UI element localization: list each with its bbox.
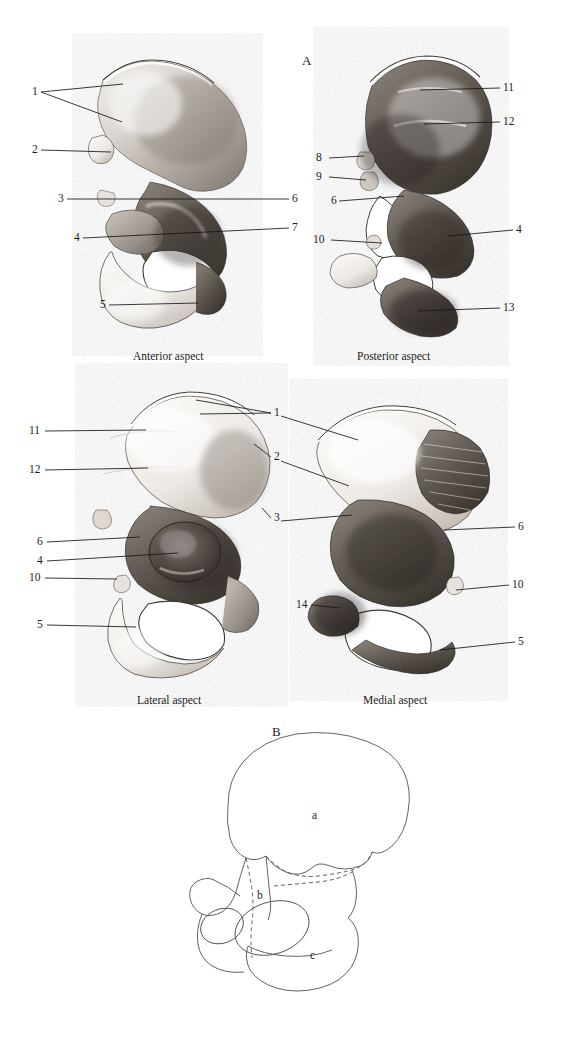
label-12-posterior: 12 [503,116,515,128]
label-11-lateral: 11 [29,425,40,437]
label-4-lateral: 4 [37,555,43,567]
caption-medial-aspect: Medial aspect [363,694,427,706]
label-6-medial: 6 [518,521,524,533]
label-7-anterior: 7 [292,222,298,234]
label-11-posterior: 11 [503,82,514,94]
label-5-anterior: 5 [100,299,106,311]
caption-lateral-aspect: Lateral aspect [137,694,201,706]
anatomy-figure-page: A 1 2 3 4 5 6 7 8 9 6 10 11 12 4 13 11 1… [0,0,580,1038]
label-6-lateral: 6 [37,536,43,548]
label-2-shared: 2 [274,451,280,463]
region-letter-c: c [310,949,315,961]
panel-letter-a: A [302,53,311,69]
panel-letter-b: B [272,724,281,740]
caption-anterior-aspect: Anterior aspect [133,350,204,362]
label-14-medial: 14 [296,599,308,611]
label-10-lateral: 10 [29,572,41,584]
bone-lateral-aspect [93,392,270,678]
label-12-lateral: 12 [29,464,41,476]
label-3-shared: 3 [274,512,280,524]
label-5-lateral: 5 [37,619,43,631]
bone-posterior-aspect [330,56,492,337]
bone-anterior-aspect [88,60,246,328]
label-1-shared: 1 [274,407,280,419]
label-6-anterior: 6 [292,193,298,205]
label-10-posterior: 10 [313,234,325,246]
label-13-posterior: 13 [503,302,515,314]
label-4-posterior: 4 [516,224,522,236]
label-3-anterior: 3 [58,193,64,205]
label-10-medial: 10 [512,579,524,591]
region-letter-b: b [257,889,263,901]
label-4-anterior: 4 [74,232,80,244]
hip-bone-illustration-canvas [0,0,580,1038]
bone-outline-diagram-b [190,733,410,991]
label-9-posterior: 9 [316,171,322,183]
label-5-medial: 5 [518,636,524,648]
label-1-anterior: 1 [32,86,38,98]
label-6-posterior: 6 [331,195,337,207]
label-8-posterior: 8 [316,152,322,164]
caption-posterior-aspect: Posterior aspect [357,350,430,362]
region-letter-a: a [312,809,317,821]
label-2-anterior: 2 [32,144,38,156]
bone-medial-aspect [308,406,490,674]
